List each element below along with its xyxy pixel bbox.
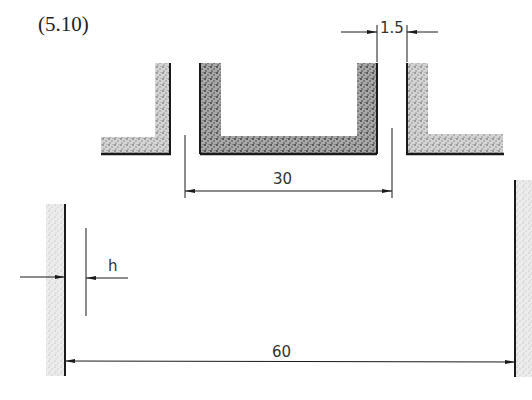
right-plate [515,180,532,377]
gap-dimension: 1.5 [341,19,438,62]
left-angle-section [101,63,171,154]
thickness-dimension: h [20,228,128,316]
channel-width-label: 30 [273,170,292,188]
channel-section [200,63,377,154]
plate-separation-dimension: 60 [65,343,515,362]
gap-dimension-label: 1.5 [380,19,404,37]
right-angle-section [406,63,504,154]
thickness-label: h [108,257,118,275]
plate-separation-label: 60 [272,343,291,361]
left-plate [46,204,65,376]
diagram-canvas: 1.5 30 h 60 [0,0,532,400]
